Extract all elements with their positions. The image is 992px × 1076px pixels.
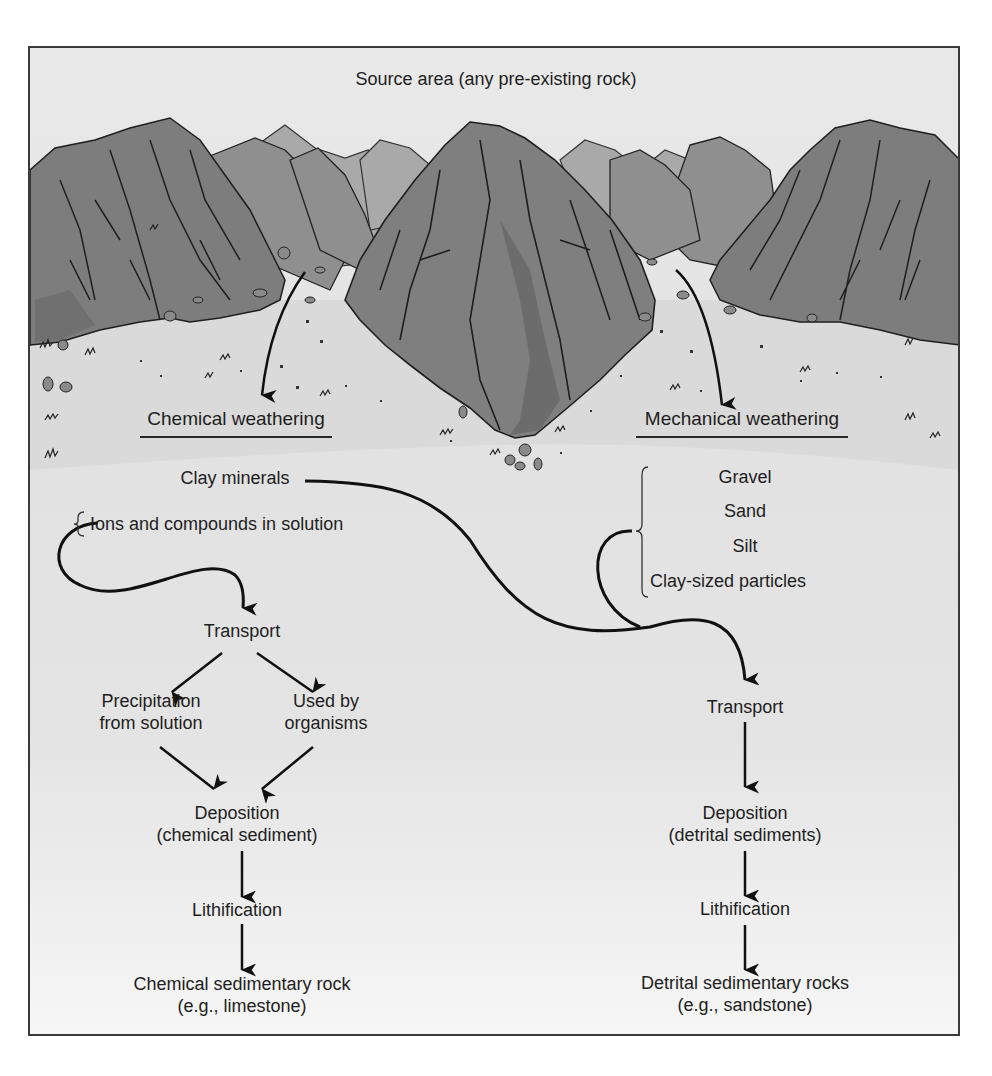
organisms-to-deposition-arrow [262,747,313,789]
clay-sized-particles-label: Clay-sized particles [650,570,806,592]
deposition-detrital-label: Deposition (detrital sediments) [640,802,850,846]
deposition-chemical-label: Deposition (chemical sediment) [132,802,342,846]
landscape-illustration [0,0,992,1076]
used-by-organisms-label: Used by organisms [266,690,386,734]
chemical-rock-line2: (e.g., limestone) [102,995,382,1017]
detrital-rock-line1: Detrital sedimentary rocks [605,972,885,994]
deposition-chemical-line1: Deposition [132,802,342,824]
source-area-title: Source area (any pre-existing rock) [296,68,696,90]
transport-label-chemical: Transport [182,620,302,642]
particles-brace [636,467,648,597]
ions-brace [74,512,84,536]
deposition-detrital-line2: (detrital sediments) [640,824,850,846]
precipitation-line1: Precipitation [86,690,216,712]
mechanical-weathering-label: Mechanical weathering [636,408,848,438]
particles-to-transport-arrow [598,531,640,627]
chemical-rock-line1: Chemical sedimentary rock [102,973,382,995]
organisms-line1: Used by [266,690,386,712]
lithification-chemical-label: Lithification [172,899,302,921]
precipitation-label: Precipitation from solution [86,690,216,734]
sand-label: Sand [680,500,810,522]
detrital-rock-line2: (e.g., sandstone) [605,994,885,1016]
chemical-rock-label: Chemical sedimentary rock (e.g., limesto… [102,973,382,1017]
deposition-chemical-line2: (chemical sediment) [132,824,342,846]
clay-minerals-label: Clay minerals [170,467,300,489]
organisms-line2: organisms [266,712,386,734]
deposition-detrital-line1: Deposition [640,802,850,824]
transport-label-detrital: Transport [685,696,805,718]
precipitation-line2: from solution [86,712,216,734]
detrital-rock-label: Detrital sedimentary rocks (e.g., sandst… [605,972,885,1016]
chemical-weathering-label: Chemical weathering [140,408,332,438]
transport-to-organisms-arrow [257,653,313,692]
ions-label: Ions and compounds in solution [90,513,343,535]
precipitation-to-deposition-arrow [160,747,214,789]
lithification-detrital-label: Lithification [680,898,810,920]
transport-to-precipitation-arrow [172,653,222,692]
gravel-label: Gravel [680,466,810,488]
silt-label: Silt [680,535,810,557]
ions-to-transport-arrow [59,523,244,608]
